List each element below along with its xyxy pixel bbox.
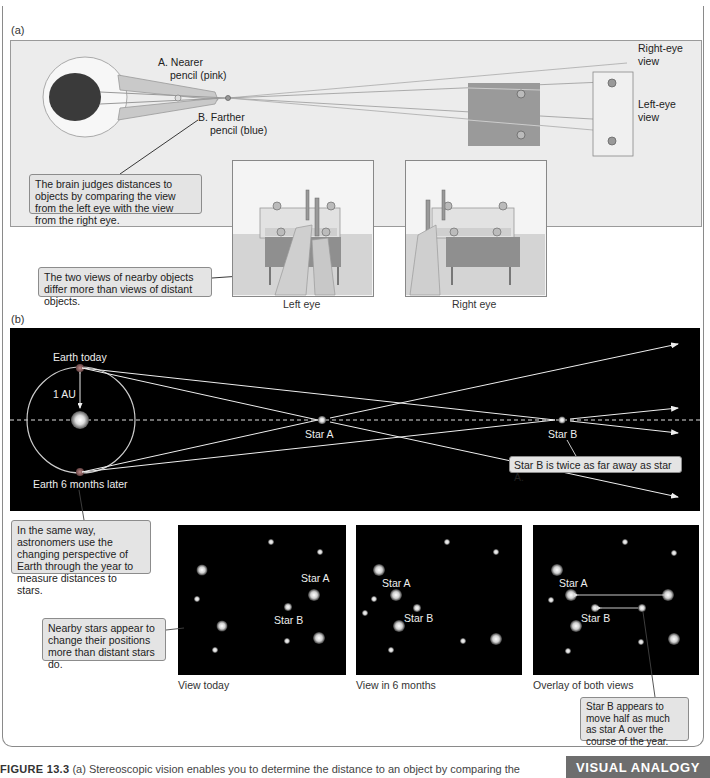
view-6-months-caption: View in 6 months [356,679,436,691]
today-star-b-label: Star B [274,614,303,627]
figure-caption: FIGURE 13.3 (a) Stereoscopic vision enab… [0,763,520,775]
overlay-star-a-label: Star A [559,577,588,590]
overlay-caption: Overlay of both views [533,679,633,691]
today-star-a-label: Star A [301,572,330,585]
callout-half-as-much: Star B appears to move half as much as s… [580,697,689,741]
view-today-caption: View today [178,679,229,691]
visual-analogy-badge: VISUAL ANALOGY [566,756,710,778]
six-months-star-a-label: Star A [382,577,411,590]
figure-number: FIGURE 13.3 [0,763,69,775]
star-fields [0,0,710,778]
overlay-star-b-label: Star B [581,612,610,625]
six-months-star-b-label: Star B [404,612,433,625]
figure-caption-text: (a) Stereoscopic vision enables you to d… [72,763,520,775]
